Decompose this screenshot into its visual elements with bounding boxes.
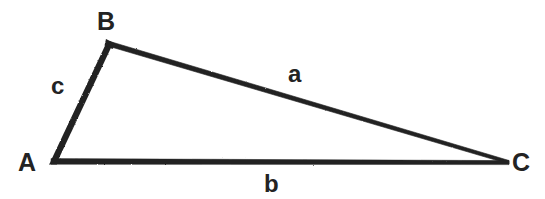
vertex-label-c: C	[512, 150, 530, 175]
side-label-c: c	[51, 74, 64, 98]
vertex-label-b: B	[97, 9, 115, 34]
vertex-label-a: A	[18, 150, 36, 175]
side-label-a: a	[288, 62, 301, 86]
side-label-b: b	[264, 172, 279, 196]
triangle-diagram: A B C a b c	[0, 0, 545, 199]
